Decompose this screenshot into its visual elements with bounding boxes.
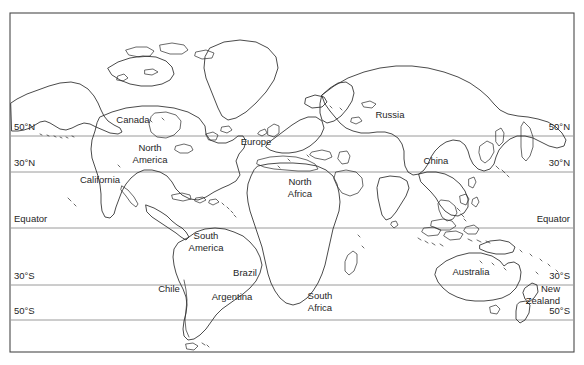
- region-label-california: California: [80, 174, 121, 185]
- region-label-north-africa-line2: Africa: [288, 188, 313, 199]
- latitude-label-right-50n: 50°N: [549, 121, 570, 132]
- latitude-label-right-equator: Equator: [537, 213, 570, 224]
- world-map-canvas: 50°N 50°N 30°N 30°N Equator Equator 30°S…: [0, 0, 584, 365]
- latitude-label-left-equator: Equator: [14, 213, 47, 224]
- region-label-china: China: [424, 155, 450, 166]
- region-label-russia: Russia: [375, 109, 405, 120]
- region-label-north-america-line2: America: [133, 154, 169, 165]
- region-label-new-zealand-line1: New: [541, 283, 560, 294]
- region-label-south-africa-line1: South: [308, 290, 333, 301]
- region-label-europe: Europe: [241, 136, 272, 147]
- latitude-label-left-30s: 30°S: [14, 270, 35, 281]
- region-label-australia: Australia: [453, 266, 491, 277]
- latitude-label-left-50s: 50°S: [14, 305, 35, 316]
- region-label-canada: Canada: [116, 114, 150, 125]
- region-label-chile: Chile: [158, 283, 180, 294]
- region-label-south-america-line2: America: [189, 242, 225, 253]
- region-label-north-america-line1: North: [138, 142, 161, 153]
- region-label-new-zealand-line2: Zealand: [526, 295, 560, 306]
- latitude-label-left-50n: 50°N: [14, 121, 35, 132]
- latitude-label-left-30n: 30°N: [14, 157, 35, 168]
- region-label-brazil: Brazil: [233, 267, 257, 278]
- latitude-label-right-30s: 30°S: [549, 270, 570, 281]
- region-label-south-africa-line2: Africa: [308, 302, 333, 313]
- world-map-figure: 50°N 50°N 30°N 30°N Equator Equator 30°S…: [0, 0, 584, 365]
- latitude-label-right-50s: 50°S: [549, 305, 570, 316]
- region-label-south-america-line1: South: [194, 230, 219, 241]
- region-label-argentina: Argentina: [212, 291, 253, 302]
- latitude-label-right-30n: 30°N: [549, 157, 570, 168]
- region-label-north-africa-line1: North: [288, 176, 311, 187]
